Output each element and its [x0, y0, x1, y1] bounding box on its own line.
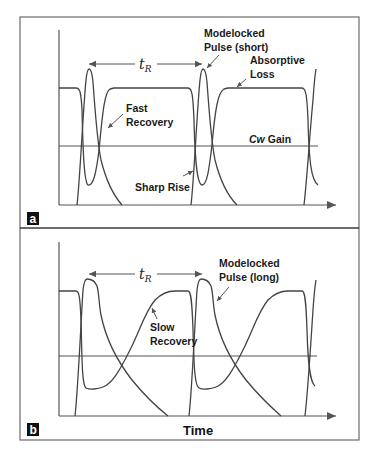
pulse-pointer-b: [217, 287, 229, 301]
sharp-rise-label: Sharp Rise: [135, 181, 190, 193]
fast-recovery-label-line1: Fast: [126, 102, 148, 114]
period-label-a: tR: [139, 56, 152, 74]
panel-b-badge-label: b: [30, 423, 37, 437]
cw-gain-label: CwGain: [249, 133, 291, 145]
recovery-pointer-a: [108, 114, 123, 128]
pulse-label-a-line1: Modelocked: [204, 27, 265, 39]
fast-recovery-label-line2: Recovery: [126, 116, 173, 128]
slow-recovery-label-line1: Slow: [150, 321, 175, 333]
pulse-curve-a-2: [191, 69, 237, 205]
slow-recovery-label-line2: Recovery: [150, 335, 197, 347]
pulse-label-a-line2: Pulse (short): [204, 41, 268, 53]
rise-pointer-a: [183, 171, 193, 176]
pulse-curve-b: [75, 279, 168, 416]
panel-a-badge-label: a: [30, 212, 37, 226]
recovery-pointer-b: [152, 308, 157, 319]
pulse-label-b-line2: Pulse (long): [219, 271, 279, 283]
pulse-curve-a: [77, 69, 122, 205]
period-label-b: tR: [139, 266, 152, 284]
loss-pointer-a: [237, 79, 246, 87]
panel-b: tR Modelocked Pulse (long) Slow Recovery…: [27, 242, 336, 438]
loss-label-line1: Absorptive: [250, 54, 305, 66]
loss-label-line2: Loss: [250, 68, 275, 80]
pulse-label-b-line1: Modelocked: [219, 257, 280, 269]
pulse-pointer-a: [207, 55, 219, 68]
panel-a: tR Modelocked Pulse (short) Absorptive L…: [27, 27, 336, 226]
x-axis-label-time: Time: [183, 423, 213, 438]
modelocking-diagram: tR Modelocked Pulse (short) Absorptive L…: [0, 0, 372, 456]
pulse-curve-b-3: [305, 280, 316, 416]
pulse-curve-b-2: [189, 279, 281, 416]
pulse-curve-a-3: [304, 69, 316, 205]
